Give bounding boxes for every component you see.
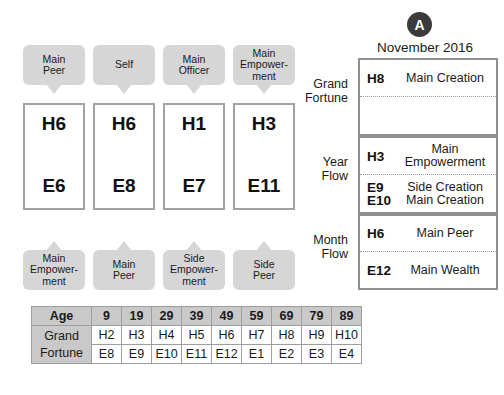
month-flow-row-1-stem: H6 — [364, 227, 398, 240]
age-cell-6: 69 — [272, 307, 302, 326]
earth-cell-3: E11 — [182, 345, 212, 364]
pillar-1-card: H6 E8 — [93, 103, 155, 210]
pillar-column-1: Self H6 E8 Main Peer — [93, 45, 155, 290]
heaven-cell-8: H10 — [332, 326, 362, 345]
grand-fortune-row-label-line1: Grand — [44, 329, 79, 343]
earth-cell-7: E3 — [302, 345, 332, 364]
flow-panel: Grand Fortune Year Flow Month Flow H8 Ma… — [358, 58, 498, 290]
pillar-2-top-line1: Main — [183, 53, 206, 65]
pillar-1-heaven-stem: H6 — [112, 114, 136, 133]
month-flow-row-1: H6 Main Peer — [360, 216, 496, 252]
table-row-heaven: Grand Fortune H2H3H4H5H6H7H8H9H10 — [32, 326, 362, 345]
age-cell-3: 39 — [182, 307, 212, 326]
pillar-3-top-line1: Main — [253, 47, 276, 59]
age-cell-7: 79 — [302, 307, 332, 326]
heaven-cell-6: H8 — [272, 326, 302, 345]
pillar-0-bottom-line1: Main — [43, 252, 66, 264]
age-header-cell: Age — [32, 307, 92, 326]
earth-cell-8: E4 — [332, 345, 362, 364]
age-cell-1: 19 — [122, 307, 152, 326]
pillar-2-top-line2: Officer — [179, 64, 210, 76]
year-flow-row-1: H3 Main Empowerment — [360, 138, 496, 175]
table-row-age: Age 91929394959697989 — [32, 307, 362, 326]
heaven-cell-7: H9 — [302, 326, 332, 345]
month-flow-label-line2: Flow — [322, 247, 348, 261]
age-cell-2: 29 — [152, 307, 182, 326]
pillar-2-heaven-stem: H1 — [182, 114, 206, 133]
year-flow-row-2-stem: E9 E10 — [364, 181, 398, 207]
pillar-0-earth-branch: E6 — [42, 176, 65, 195]
earth-cell-0: E8 — [92, 345, 122, 364]
section-badge-a: A — [407, 12, 432, 37]
year-flow-label-line2: Flow — [322, 169, 348, 183]
month-flow-row-2-desc: Main Wealth — [398, 264, 492, 277]
pillar-0-top-line1: Main — [43, 53, 66, 65]
pillar-0-card: H6 E6 — [23, 103, 85, 210]
year-flow-block: H3 Main Empowerment E9 E10 Side Creation… — [358, 136, 498, 214]
pillar-0-bottom-line2: Empower- — [30, 263, 78, 275]
pillar-3-heaven-stem: H3 — [252, 114, 276, 133]
pillar-2-top-callout: Main Officer — [163, 45, 225, 85]
pillar-0-bottom-callout: Main Empower- ment — [23, 250, 85, 290]
pillar-0-top-line2: Peer — [43, 64, 65, 76]
age-cell-0: 9 — [92, 307, 122, 326]
pillar-3-top-line3: ment — [252, 70, 275, 82]
pillar-1-bottom-callout: Main Peer — [93, 250, 155, 290]
earth-cell-6: E2 — [272, 345, 302, 364]
pillar-1-bottom-line1: Main — [113, 258, 136, 270]
grand-fortune-row-1-stem: H8 — [364, 72, 398, 85]
year-flow-row-2: E9 E10 Side Creation Main Creation — [360, 175, 496, 212]
pillar-2-earth-branch: E7 — [182, 176, 205, 195]
pillar-1-earth-branch: E8 — [112, 176, 135, 195]
pillar-0-top-callout: Main Peer — [23, 45, 85, 85]
pillar-2-bottom-line2: Empower- — [170, 263, 218, 275]
year-flow-row-1-desc-line2: Empowerment — [398, 156, 492, 169]
month-flow-row-2: E12 Main Wealth — [360, 252, 496, 288]
pillar-3-bottom-line2: Peer — [253, 269, 275, 281]
grand-fortune-row-1: H8 Main Creation — [360, 60, 496, 97]
year-flow-row-2-stem-line2: E10 — [367, 194, 398, 207]
year-flow-row-1-stem: H3 — [364, 150, 398, 163]
pillar-0-bottom-line3: ment — [42, 275, 65, 287]
year-flow-row-2-desc-line2: Main Creation — [398, 194, 492, 207]
pillar-2-bottom-line1: Side — [183, 252, 204, 264]
earth-cell-1: E9 — [122, 345, 152, 364]
pillar-1-top-callout: Self — [93, 45, 155, 85]
earth-cell-2: E10 — [152, 345, 182, 364]
grand-fortune-row-1-desc: Main Creation — [398, 72, 492, 85]
grand-fortune-block: H8 Main Creation — [358, 58, 498, 136]
month-flow-row-1-desc: Main Peer — [398, 227, 492, 240]
age-cell-8: 89 — [332, 307, 362, 326]
month-flow-block: H6 Main Peer E12 Main Wealth — [358, 214, 498, 290]
earth-cell-4: E12 — [212, 345, 242, 364]
four-pillars-chart: Main Peer H6 E6 Main Empower- ment Self … — [23, 45, 297, 290]
grand-fortune-label-line2: Fortune — [305, 91, 348, 105]
earth-cell-5: E1 — [242, 345, 272, 364]
age-cell-4: 49 — [212, 307, 242, 326]
grand-fortune-label: Grand Fortune — [286, 78, 348, 105]
heaven-cell-2: H4 — [152, 326, 182, 345]
grand-fortune-row-label-line2: Fortune — [40, 346, 83, 360]
grand-fortune-row-label: Grand Fortune — [32, 326, 92, 364]
heaven-cell-0: H2 — [92, 326, 122, 345]
heaven-cell-3: H5 — [182, 326, 212, 345]
heaven-cell-4: H6 — [212, 326, 242, 345]
grand-fortune-row-2 — [360, 97, 496, 134]
grand-fortune-age-table: Age 91929394959697989 Grand Fortune H2H3… — [31, 306, 362, 364]
heaven-cell-5: H7 — [242, 326, 272, 345]
age-cell-5: 59 — [242, 307, 272, 326]
year-flow-row-2-desc: Side Creation Main Creation — [398, 181, 492, 207]
year-flow-row-1-desc: Main Empowerment — [398, 143, 492, 169]
month-title: November 2016 — [352, 40, 498, 55]
pillar-3-earth-branch: E11 — [248, 176, 281, 195]
grand-fortune-label-line1: Grand — [313, 77, 348, 91]
pillar-1-bottom-line2: Peer — [113, 269, 135, 281]
month-flow-label: Month Flow — [286, 234, 348, 261]
pillar-2-bottom-line3: ment — [182, 275, 205, 287]
pillar-3-bottom-line1: Side — [253, 258, 274, 270]
pillar-2-card: H1 E7 — [163, 103, 225, 210]
month-flow-label-line1: Month — [313, 233, 348, 247]
year-flow-label-line1: Year — [323, 155, 348, 169]
pillar-column-0: Main Peer H6 E6 Main Empower- ment — [23, 45, 85, 290]
month-flow-row-2-stem: E12 — [364, 264, 398, 277]
